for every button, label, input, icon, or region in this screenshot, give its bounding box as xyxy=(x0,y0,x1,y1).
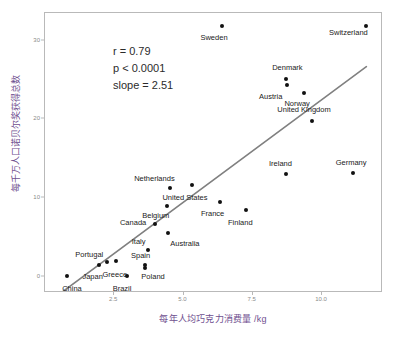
data-point-label: Poland xyxy=(141,272,164,281)
data-point-label: Ireland xyxy=(269,159,292,168)
correlation-text: r = 0.79 xyxy=(113,43,173,60)
data-point-label: Greece xyxy=(103,269,128,278)
data-point-label: Australia xyxy=(170,239,199,248)
data-point-label: Germany xyxy=(336,158,367,167)
y-tick-label: 20 xyxy=(20,115,40,121)
x-tick-mark xyxy=(183,292,184,295)
data-point xyxy=(220,24,224,28)
data-point-label: Switzerland xyxy=(329,28,368,37)
slope-text: slope = 2.51 xyxy=(113,77,173,94)
data-point xyxy=(165,204,169,208)
data-point-label: China xyxy=(62,283,82,291)
data-point-label: Norway xyxy=(284,98,309,107)
data-point-label: Japan xyxy=(82,272,102,281)
y-tick-label: 30 xyxy=(20,37,40,43)
statistics-annotation: r = 0.79 p < 0.0001 slope = 2.51 xyxy=(113,43,173,94)
data-point xyxy=(302,91,306,95)
plot-area: ChinaJapanPortugalBrazilGreeceSpainPolan… xyxy=(45,13,381,291)
data-point xyxy=(284,77,288,81)
data-point xyxy=(114,259,118,263)
regression-line xyxy=(63,67,366,291)
data-point xyxy=(153,222,157,226)
y-tick-label: 0 xyxy=(20,273,40,279)
data-point xyxy=(218,200,222,204)
data-point-label: France xyxy=(201,208,224,217)
data-point-label: Italy xyxy=(132,237,146,246)
data-point-label: Sweden xyxy=(200,33,227,42)
data-point-label: Portugal xyxy=(75,249,103,258)
data-point-label: Brazil xyxy=(113,283,132,291)
x-tick-mark xyxy=(113,292,114,295)
y-axis-title: 每千万人口诺贝尔奖获得总数 xyxy=(9,82,22,192)
data-point xyxy=(97,263,101,267)
data-point xyxy=(284,172,288,176)
x-tick-label: 7.5 xyxy=(238,296,266,302)
x-tick-mark xyxy=(321,292,322,295)
plot-panel: ChinaJapanPortugalBrazilGreeceSpainPolan… xyxy=(44,12,382,292)
data-point-label: Spain xyxy=(131,250,150,259)
x-tick-mark xyxy=(252,292,253,295)
data-point-label: United States xyxy=(162,192,207,201)
pvalue-text: p < 0.0001 xyxy=(113,60,173,77)
scatter-plot-figure: 每千万人口诺贝尔奖获得总数 每年人均巧克力消费量 /kg 0102030 2.5… xyxy=(0,0,402,344)
data-point-label: Belgium xyxy=(142,210,169,219)
x-axis-title: 每年人均巧克力消费量 /kg xyxy=(44,312,382,325)
data-point xyxy=(105,260,109,264)
x-tick-label: 10.0 xyxy=(307,296,335,302)
x-tick-label: 2.5 xyxy=(99,296,127,302)
data-point-label: Denmark xyxy=(272,63,302,72)
x-tick-label: 5.0 xyxy=(169,296,197,302)
data-point xyxy=(351,171,355,175)
data-point-label: Austria xyxy=(259,92,282,101)
y-tick-label: 10 xyxy=(20,194,40,200)
data-point xyxy=(190,183,194,187)
data-point-label: Netherlands xyxy=(134,173,174,182)
data-point-label: Finland xyxy=(228,218,253,227)
